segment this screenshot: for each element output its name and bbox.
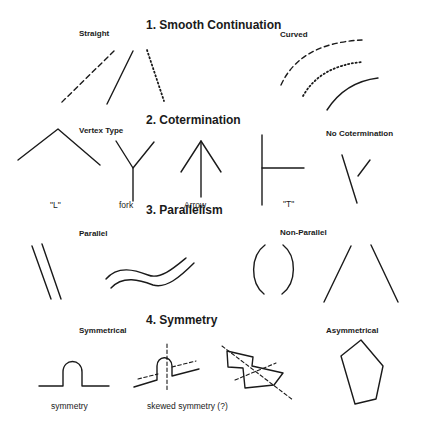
- non-parallel-left-paren: [254, 245, 265, 294]
- no-cotermination-long-line: [342, 155, 357, 203]
- gestalt-diagram: [0, 0, 425, 429]
- curved-dashed-arc: [281, 40, 362, 85]
- non-parallel-line-2: [371, 245, 398, 302]
- symmetric-bump: [39, 362, 109, 387]
- straight-dashed-line: [61, 51, 114, 103]
- vertex-l: [18, 129, 100, 165]
- no-cotermination-short-line: [358, 160, 370, 176]
- skewed-polygon: [227, 351, 283, 388]
- vertex-fork-arms: [116, 141, 154, 168]
- straight-dotted-line: [147, 50, 164, 101]
- curved-dotted-arc: [303, 62, 362, 96]
- skewed-guide-right: [172, 361, 196, 367]
- straight-solid-line: [107, 51, 133, 104]
- parallel-line-1: [32, 246, 51, 299]
- parallel-line-2: [42, 244, 61, 299]
- non-parallel-right-paren: [282, 245, 293, 294]
- curved-solid-arc: [327, 78, 378, 110]
- non-parallel-line-1: [324, 246, 351, 302]
- skewed-guide-left: [138, 374, 158, 379]
- parallel-wave-1: [106, 258, 186, 279]
- asymmetric-polygon: [341, 340, 383, 404]
